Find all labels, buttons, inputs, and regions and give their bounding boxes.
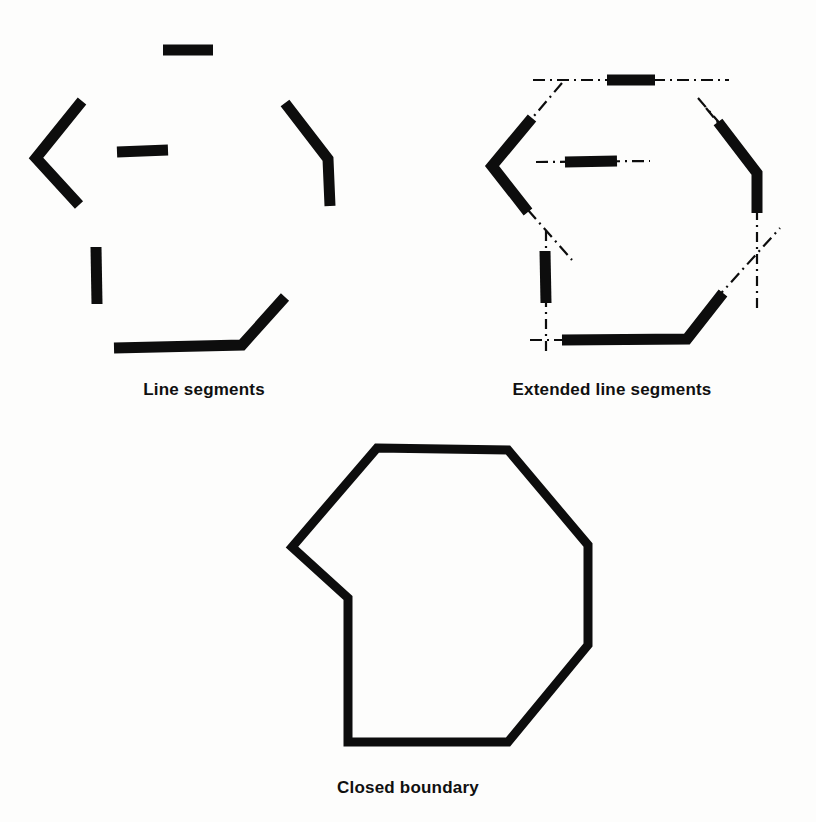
segment-left-vertical xyxy=(545,251,546,303)
segment-right-elbow xyxy=(718,122,757,213)
figure-container: Line segments Extended line segments Clo… xyxy=(0,0,816,822)
left-chevron-upper-extension xyxy=(528,83,562,123)
segment-inner-horizontal xyxy=(117,150,168,152)
panel-closed-boundary xyxy=(204,415,612,822)
segment-left-chevron xyxy=(36,101,82,205)
panel-line-segments xyxy=(0,0,408,415)
extended-line-segments-drawing xyxy=(408,0,816,415)
line-segments-drawing xyxy=(0,0,408,415)
closed-boundary-drawing xyxy=(204,415,612,822)
panel-extended-line-segments xyxy=(408,0,816,415)
segment-bottom-elbow xyxy=(114,297,285,348)
closed-boundary-polygon xyxy=(292,448,588,742)
segment-left-vertical xyxy=(96,247,97,304)
segment-left-chevron xyxy=(492,118,532,212)
caption-line-segments: Line segments xyxy=(0,380,408,400)
segment-right-elbow xyxy=(285,103,330,206)
segment-bottom-elbow xyxy=(562,293,723,340)
segment-inner-horizontal xyxy=(565,161,617,162)
caption-extended-line-segments: Extended line segments xyxy=(408,380,816,400)
caption-closed-boundary: Closed boundary xyxy=(204,778,612,798)
bottom-diagonal-extension xyxy=(715,228,780,300)
